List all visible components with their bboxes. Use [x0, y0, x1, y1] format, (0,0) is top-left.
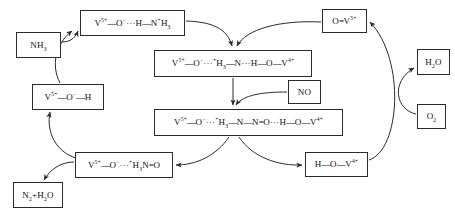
product-nitrogen-water: N2+H2O — [13, 182, 63, 208]
intermediate-vanadyl-oxo: O=V5+ — [322, 9, 367, 33]
intermediate-vanadium-hydroxyl-label: V5+—O−—H — [45, 93, 92, 102]
intermediate-vanadium-hydroxyl: V5+—O−—H — [32, 84, 104, 110]
reactant-nitric-oxide-label: NO — [298, 88, 311, 97]
intermediate-ammonium-adsorbed-label: V5+—O−···H—N+H3 — [94, 19, 170, 28]
intermediate-nitrosamide-complex-label: V5+—O−···+H3—N—N=O···H—O—V4+ — [174, 118, 323, 127]
arrow-no-to-nitrosamide — [236, 92, 287, 105]
arrow-adsorbed-to-dual-site — [186, 21, 232, 46]
arrow-nitrosamine-to-hydroxyl — [49, 112, 76, 158]
arrow-nitrosamide-to-nitrosamine — [176, 137, 229, 165]
intermediate-vanadyl-oxo-label: O=V5+ — [332, 17, 356, 26]
arrow-nitrosamide-to-reduced — [239, 137, 302, 165]
intermediate-dual-site-ammonium-complex-label: V5+—O−···+H3—N···H—O—V4+ — [172, 59, 295, 68]
arrow-nitrosamine-to-products — [44, 162, 74, 180]
intermediate-nitrosamide-complex: V5+—O−···+H3—N—N=O···H—O—V4+ — [154, 109, 343, 136]
reaction-mechanism-diagram: NH3V5+—O−···H—N+H3V5+—O−—HV5+—O−···+H3N=… — [0, 0, 455, 212]
intermediate-reduced-vanadium-hydroxyl: H—O—V4+ — [305, 152, 368, 177]
intermediate-dual-site-ammonium-complex: V5+—O−···+H3—N···H—O—V4+ — [154, 50, 312, 77]
intermediate-nitrosamine-precursor: V5+—O−···+H3N=O — [75, 152, 173, 178]
intermediate-ammonium-adsorbed: V5+—O−···H—N+H3 — [80, 10, 185, 36]
intermediate-nitrosamine-precursor-label: V5+—O−···+H3N=O — [88, 161, 160, 170]
reactant-oxygen: O2 — [417, 104, 446, 129]
reactant-ammonia-label: NH3 — [30, 41, 46, 50]
reactant-ammonia: NH3 — [16, 32, 61, 58]
arrow-reduced-to-vanadyl — [369, 22, 395, 160]
product-water: H2O — [417, 49, 450, 75]
product-water-label: H2O — [425, 58, 441, 67]
arrow-oxygen-to-water — [398, 68, 416, 114]
product-nitrogen-water-label: N2+H2O — [22, 191, 53, 200]
reactant-oxygen-label: O2 — [427, 112, 437, 121]
reactant-nitric-oxide: NO — [288, 80, 321, 104]
intermediate-reduced-vanadium-hydroxyl-label: H—O—V4+ — [315, 160, 358, 169]
arrow-vanadyl-to-dual-site — [237, 22, 321, 46]
